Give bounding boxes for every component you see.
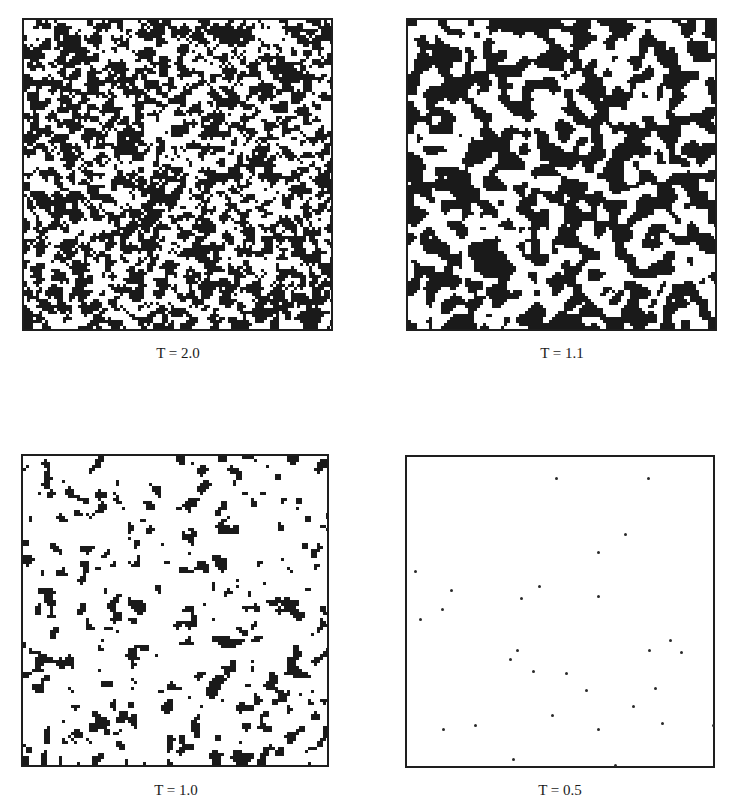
spin-point [512,758,515,761]
spin-point [419,618,422,621]
spin-point [565,672,568,675]
spin-point [597,551,600,554]
spin-point [532,670,535,673]
lattice-panel-t0-5 [405,455,715,768]
spin-point [712,724,715,727]
spin-lattice-t2-0 [24,20,331,329]
spin-point [647,477,650,480]
spin-point [516,649,519,652]
caption-t1-1: T = 1.1 [482,345,642,362]
spin-point [614,764,617,767]
lattice-panel-t1-1 [406,18,717,331]
spin-point [520,597,523,600]
spin-lattice-t1-0 [23,456,327,765]
spin-point [597,728,600,731]
spin-point [669,639,672,642]
spin-lattice-t1-1 [408,20,715,329]
spin-point [538,585,541,588]
caption-t1-0: T = 1.0 [96,782,256,799]
spin-point [442,728,445,731]
lattice-panel-t2-0 [22,18,333,331]
spin-point [450,589,453,592]
spin-point [648,649,651,652]
spin-point [414,570,417,573]
spin-point [474,724,477,727]
spin-point [680,651,683,654]
spin-point [597,595,600,598]
spin-point [551,714,554,717]
spin-point [661,722,664,725]
spin-point [632,705,635,708]
spin-point [654,687,657,690]
spin-point [624,533,627,536]
lattice-panel-t1-0 [21,454,329,767]
caption-t0-5: T = 0.5 [480,782,640,799]
spin-point [585,689,588,692]
spin-point [555,477,558,480]
spin-point [441,608,444,611]
caption-t2-0: T = 2.0 [98,345,258,362]
spin-point [509,658,512,661]
